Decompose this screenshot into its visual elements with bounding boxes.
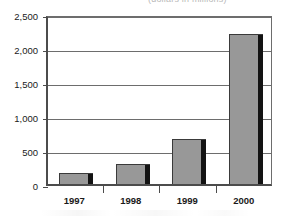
chart-title-text: (dollars in millions) (148, 0, 227, 4)
y-axis-tick (43, 51, 48, 52)
x-axis-tick (103, 186, 104, 193)
y-axis-tick-label: 1,000 (0, 113, 38, 124)
x-axis-tick-label: 1999 (177, 195, 198, 206)
y-axis-tick-label: 2,000 (0, 45, 38, 56)
plot-area (46, 16, 272, 186)
scan-artifact (40, 210, 250, 216)
bar (116, 164, 150, 184)
bar (172, 139, 206, 184)
chart-title-clipped: (dollars in millions) (148, 0, 276, 7)
bar (229, 34, 263, 184)
y-axis-tick (43, 153, 48, 154)
bar-shadow (201, 140, 206, 184)
x-axis-tick-label: 2000 (233, 195, 254, 206)
y-axis-tick-label: 0 (0, 181, 38, 192)
x-axis-tick-label: 1998 (120, 195, 141, 206)
y-axis-tick (43, 119, 48, 120)
bar-shadow (88, 174, 93, 184)
bar (59, 173, 93, 184)
y-axis-tick-label: 1,500 (0, 79, 38, 90)
y-axis-tick (43, 187, 48, 188)
x-axis-tick (216, 186, 217, 193)
y-axis-tick-label: 500 (0, 147, 38, 158)
x-axis-tick (159, 186, 160, 193)
gridline (48, 17, 271, 18)
bar-shadow (145, 165, 150, 184)
y-axis-tick (43, 85, 48, 86)
bar-chart: (dollars in millions) 05001,0001,5002,00… (0, 0, 284, 221)
y-axis-tick-label: 2,500 (0, 11, 38, 22)
x-axis-tick-label: 1997 (64, 195, 85, 206)
bar-shadow (258, 35, 263, 184)
y-axis-tick (43, 17, 48, 18)
